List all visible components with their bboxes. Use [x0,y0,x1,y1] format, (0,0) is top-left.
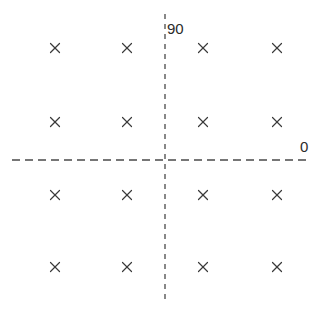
x-marker [51,44,60,53]
x-marker [273,263,282,272]
x-marker [51,118,60,127]
scatter-plot-canvas: 90 0 [0,0,324,320]
x-marker [123,263,132,272]
x-marker [273,44,282,53]
horizontal-axis-label: 0 [300,139,308,154]
x-marker [199,263,208,272]
x-marker [199,44,208,53]
x-marker [123,118,132,127]
x-marker [123,44,132,53]
axes-group [12,14,311,301]
x-marker [51,263,60,272]
x-marker [199,191,208,200]
plot-svg [0,0,324,320]
x-marker [199,118,208,127]
vertical-axis-label: 90 [167,21,184,36]
x-marker [123,191,132,200]
x-marker [51,191,60,200]
x-marker [273,118,282,127]
x-marker [273,191,282,200]
marker-group [51,44,282,272]
